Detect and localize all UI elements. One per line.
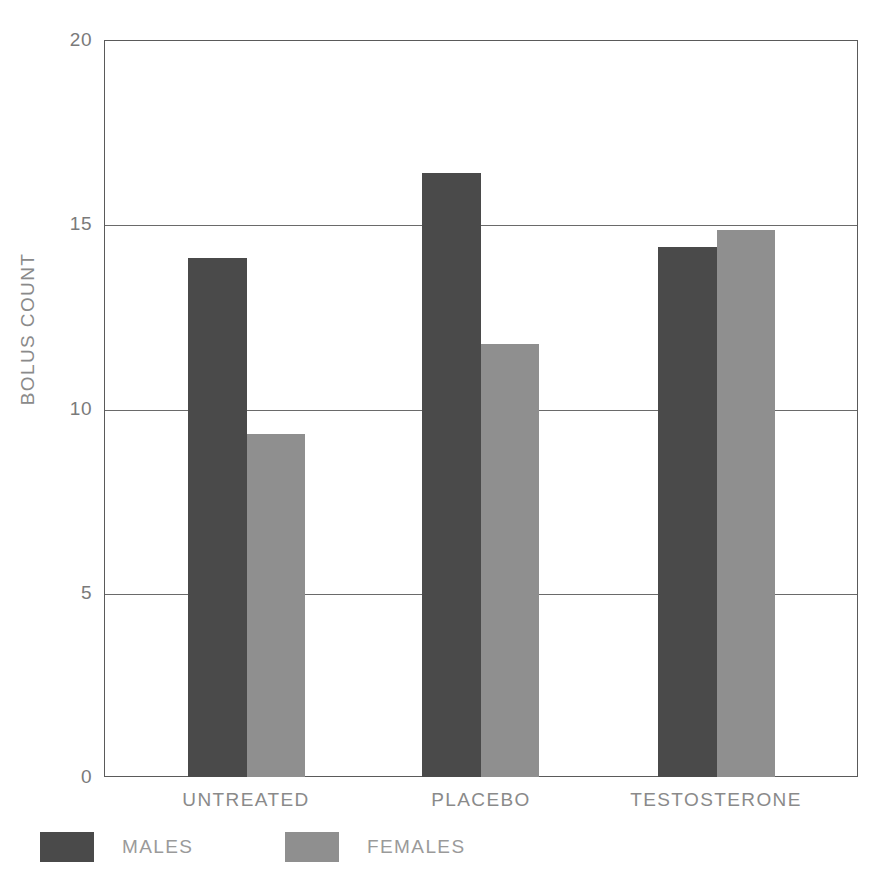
y-tick-label-15: 15 [32,213,92,235]
y-tick-label-20: 20 [32,29,92,51]
legend-item-females: FEMALES [285,832,466,862]
gridline-10 [105,410,857,411]
legend-label-males: MALES [122,836,193,858]
x-tick-label-testosterone: TESTOSTERONE [566,789,866,811]
legend-swatch-females-icon [285,832,339,862]
bar-chart: BOLUS COUNT 20 15 10 5 0 UNTREATED PLACE… [0,0,881,880]
legend-item-males: MALES [40,832,285,862]
legend-label-females: FEMALES [367,836,466,858]
y-tick-label-5: 5 [32,582,92,604]
y-tick-label-0: 0 [32,766,92,788]
legend-swatch-males-icon [40,832,94,862]
gridline-5 [105,594,857,595]
chart-legend: MALES FEMALES [40,832,466,862]
y-axis-title: BOLUS COUNT [17,149,39,509]
gridline-15 [105,225,857,226]
plot-area [104,40,858,777]
y-tick-label-10: 10 [32,398,92,420]
